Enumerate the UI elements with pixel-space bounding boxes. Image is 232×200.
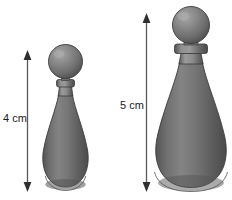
small-bottle-neck [58,86,73,96]
large-bottle-height-label: 5 cm [120,99,144,111]
small-bottle-ball-highlight [54,50,65,58]
small-bottle [43,45,88,191]
small-bottle-body [43,95,88,187]
figure-canvas: 4 cm 5 cm [0,0,232,200]
large-bottle-ball-highlight [178,12,190,21]
small-bottle-base-shadow [45,179,85,190]
large-bottle-collar [175,44,208,54]
small-bottle-ball-stopper [49,45,83,79]
large-bottle-ball-stopper [173,7,210,44]
large-bottle-dimension: 5 cm [120,13,150,192]
bottles-diagram: 4 cm 5 cm [0,0,232,200]
large-bottle [155,7,228,192]
small-bottle-dimension: 4 cm [3,50,31,192]
arrow-down-icon [24,182,32,192]
large-bottle-base-shadow [158,175,224,191]
arrow-up-icon [24,50,32,60]
arrow-down-icon [143,182,151,192]
arrow-up-icon [143,13,151,23]
large-bottle-body [156,62,227,188]
large-bottle-neck [179,53,203,64]
small-bottle-height-label: 4 cm [3,112,27,124]
